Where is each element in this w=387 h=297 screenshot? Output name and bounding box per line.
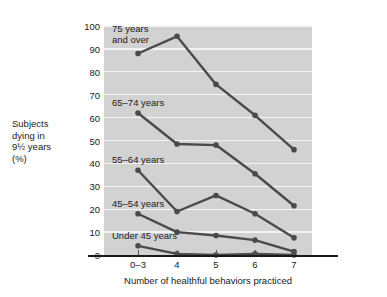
- data-point: [135, 243, 141, 249]
- series-annotation: Under 45 years: [112, 230, 177, 241]
- y-axis-label: Subjects dying in 9½ years (%): [12, 118, 74, 164]
- data-point: [135, 51, 141, 57]
- y-axis-label-line-4: (%): [12, 153, 74, 165]
- plot-area: [104, 26, 312, 255]
- x-axis-tick-label: 6: [252, 259, 257, 270]
- data-point: [135, 211, 141, 217]
- data-point: [291, 147, 297, 153]
- data-point: [252, 171, 258, 177]
- data-point: [213, 142, 219, 148]
- y-axis-ticks: 0102030405060708090100: [70, 0, 100, 297]
- data-point: [291, 235, 297, 241]
- data-point: [174, 141, 180, 147]
- data-point: [174, 34, 180, 40]
- y-axis-tick-label: 90: [70, 43, 100, 54]
- y-axis-tick-label: 50: [70, 135, 100, 146]
- series-annotation-line: 75 years: [112, 23, 149, 34]
- y-axis-tick-label: 100: [70, 21, 100, 32]
- data-point: [213, 233, 219, 239]
- series-annotation: 75 yearsand over: [112, 23, 149, 45]
- series-annotation-line: and over: [112, 34, 149, 45]
- data-point: [252, 113, 258, 119]
- chart-figure: Subjects dying in 9½ years (%) 010203040…: [0, 0, 387, 297]
- series-annotation: 45–54 years: [112, 198, 164, 209]
- y-axis-label-line-3: 9½ years: [12, 141, 74, 153]
- series-annotation: 65–74 years: [112, 97, 164, 108]
- x-axis-tick-mark: [294, 250, 295, 255]
- x-axis-tick-mark: [255, 250, 256, 255]
- series-annotation-line: 65–74 years: [112, 97, 164, 108]
- data-point: [291, 203, 297, 209]
- series-annotation-line: 45–54 years: [112, 198, 164, 209]
- x-axis-tick-label: 0–3: [130, 259, 146, 270]
- y-axis-label-line-2: dying in: [12, 130, 74, 142]
- data-point: [252, 237, 258, 243]
- y-axis-tick-label: 40: [70, 158, 100, 169]
- y-axis-tick-label: 70: [70, 89, 100, 100]
- y-axis-tick-label: 10: [70, 227, 100, 238]
- data-point: [174, 209, 180, 215]
- x-axis-tick-mark: [138, 250, 139, 255]
- x-axis-label: Number of healthful behaviors practiced: [104, 275, 312, 286]
- x-axis-line: [88, 255, 338, 257]
- series-annotation-line: Under 45 years: [112, 230, 177, 241]
- y-axis-tick-label: 80: [70, 66, 100, 77]
- y-axis-tick-label: 30: [70, 181, 100, 192]
- data-point: [252, 211, 258, 217]
- y-axis-tick-label: 60: [70, 112, 100, 123]
- x-axis-tick-label: 5: [213, 259, 218, 270]
- data-point: [135, 167, 141, 173]
- data-point: [213, 193, 219, 199]
- series-annotation: 55–64 years: [112, 154, 164, 165]
- x-axis-tick-mark: [216, 250, 217, 255]
- y-axis-tick-label: 20: [70, 204, 100, 215]
- data-point: [213, 82, 219, 88]
- data-point: [135, 110, 141, 116]
- series-annotation-line: 55–64 years: [112, 154, 164, 165]
- y-axis-label-line-1: Subjects: [12, 118, 74, 130]
- series-lines: [104, 26, 312, 255]
- x-axis-tick-label: 4: [174, 259, 179, 270]
- x-axis-tick-label: 7: [291, 259, 296, 270]
- x-axis-tick-mark: [177, 250, 178, 255]
